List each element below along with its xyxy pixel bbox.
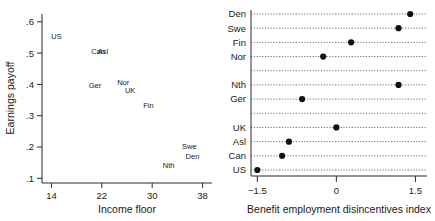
data-point-label: Nth (163, 161, 175, 170)
dot-plot-benefit-index: DenSweFinNorNthGerUKAslCanUS −1.501.5 Be… (218, 0, 435, 221)
data-point-label: Ger (89, 81, 102, 90)
category-label: Fin (233, 37, 246, 48)
category-label: Nth (231, 79, 246, 90)
x-tick-label-right: 0 (334, 185, 339, 196)
data-point-dot (320, 53, 326, 59)
category-label: Asl (233, 136, 246, 147)
panel-earnings-payoff: .1.2.3.4.5.6 14223038 USCanAslGerNorUKFi… (0, 0, 218, 221)
dot-plot-rows: DenSweFinNorNthGerUKAslCanUS (228, 8, 427, 175)
x-tick-label: 14 (46, 190, 57, 201)
category-label: Den (229, 8, 246, 19)
x-tick-label: 30 (147, 190, 158, 201)
y-tick-label: .6 (26, 16, 34, 27)
y-tick-label: .2 (26, 141, 34, 152)
y-tick-label: .5 (26, 48, 34, 59)
y-axis-ticks: .1.2.3.4.5.6 (26, 16, 42, 183)
y-tick-label: .3 (26, 110, 34, 121)
data-point-label: Asl (98, 47, 109, 56)
x-axis-title: Income floor (98, 203, 156, 215)
data-point-dot (333, 124, 339, 130)
data-point-label: Swe (182, 142, 197, 151)
panel-disincentives-index: DenSweFinNorNthGerUKAslCanUS −1.501.5 Be… (218, 0, 435, 221)
data-point-dot (299, 96, 305, 102)
data-point-labels: USCanAslGerNorUKFinSweDenNth (51, 32, 199, 170)
data-point-dot (254, 167, 260, 173)
x-axis-ticks: 14223038 (46, 183, 208, 201)
data-point-dot (286, 139, 292, 145)
data-point-dot (348, 39, 354, 45)
data-point-dot (279, 153, 285, 159)
x-axis-title-right: Benefit employment disincentives index (247, 203, 432, 215)
data-point-label: UK (125, 86, 135, 95)
x-tick-label-right: −1.5 (248, 185, 267, 196)
data-point-label: US (51, 32, 61, 41)
y-axis-title: Earnings payoff (4, 62, 16, 135)
category-label: Nor (231, 51, 246, 62)
two-panel-figure: .1.2.3.4.5.6 14223038 USCanAslGerNorUKFi… (0, 0, 435, 221)
category-label: UK (233, 122, 247, 133)
y-tick-label: .1 (26, 173, 34, 184)
x-tick-label: 38 (197, 190, 208, 201)
category-label: Ger (230, 93, 246, 104)
category-label: US (233, 164, 246, 175)
x-axis-ticks-right: −1.501.5 (248, 176, 422, 196)
data-point-dot (407, 11, 413, 17)
x-tick-label: 22 (97, 190, 108, 201)
data-point-label: Den (186, 152, 200, 161)
data-point-dot (395, 25, 401, 31)
scatter-plot-income-floor: .1.2.3.4.5.6 14223038 USCanAslGerNorUKFi… (0, 0, 218, 221)
x-tick-label-right: 1.5 (409, 185, 422, 196)
category-label: Can (229, 150, 246, 161)
data-point-label: Fin (143, 101, 153, 110)
category-label: Swe (228, 23, 246, 34)
y-tick-label: .4 (26, 79, 34, 90)
data-point-dot (395, 82, 401, 88)
